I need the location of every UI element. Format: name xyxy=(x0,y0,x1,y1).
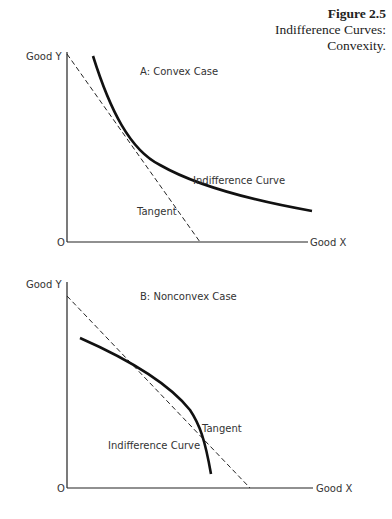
panel-a-curve-label: Indifference Curve xyxy=(193,175,285,186)
panel-b-x-label: Good X xyxy=(316,483,353,494)
indifference-diagrams: Good Y O Good X A: Convex Case Indiffere… xyxy=(0,0,392,519)
panel-a-tangent-label: Tangent xyxy=(136,206,177,217)
panel-b-nonconvex: Good Y O Good X B: Nonconvex Case Indiff… xyxy=(26,279,353,494)
panel-a-tangent-line xyxy=(67,54,200,242)
panel-a-convex: Good Y O Good X A: Convex Case Indiffere… xyxy=(26,51,347,248)
panel-b-tangent-label: Tangent xyxy=(201,423,242,434)
panel-a-y-label: Good Y xyxy=(26,51,63,62)
panel-b-tangent-line xyxy=(67,296,250,488)
panel-b-curve-label: Indifference Curve xyxy=(108,440,200,451)
panel-a-title: A: Convex Case xyxy=(140,66,218,77)
panel-b-origin-label: O xyxy=(57,483,65,494)
panel-b-title: B: Nonconvex Case xyxy=(140,291,237,302)
panel-a-x-label: Good X xyxy=(310,237,347,248)
panel-a-indifference-curve xyxy=(93,56,312,211)
panel-a-origin-label: O xyxy=(57,237,65,248)
panel-b-indifference-curve xyxy=(80,338,211,474)
panel-b-y-label: Good Y xyxy=(26,279,63,290)
